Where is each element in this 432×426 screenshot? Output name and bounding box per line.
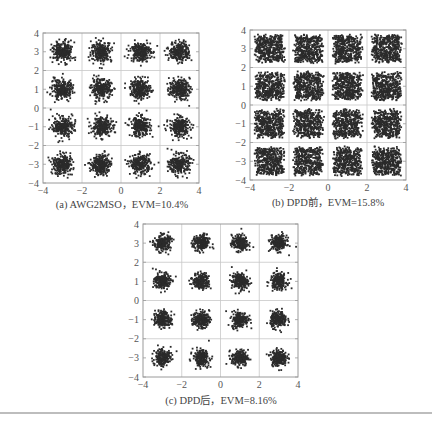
svg-text:−4: −4 [245,182,256,193]
chart-caption-b: (b) DPD前，EVM=15.8% [250,194,406,209]
svg-text:−1: −1 [235,118,246,129]
svg-text:3: 3 [134,238,139,249]
chart-caption-a: (a) AWG2MSO，EVM=10.4% [44,196,200,211]
svg-text:−4: −4 [38,185,49,196]
scatter-plot-a: −4−3−2−101234−4−2024 [23,27,207,197]
chart-caption-c: (c) DPD后，EVM=8.16% [143,392,299,407]
svg-text:0: 0 [119,185,124,196]
svg-text:2: 2 [257,379,262,390]
svg-text:0: 0 [134,295,139,306]
scatter-plot-b: −4−3−2−101234−4−2024 [230,24,414,194]
svg-text:−3: −3 [28,159,39,170]
svg-text:−3: −3 [235,156,246,167]
svg-text:−3: −3 [128,352,139,363]
svg-text:2: 2 [158,185,163,196]
svg-text:3: 3 [241,43,246,54]
svg-text:4: 4 [197,185,202,196]
svg-text:4: 4 [134,219,139,230]
scatter-plot-c: −4−3−2−101234−4−2024 [123,218,306,391]
constellation-chart-b: −4−3−2−101234−4−2024 [230,24,414,194]
svg-text:1: 1 [241,81,246,92]
svg-text:0: 0 [218,379,223,390]
constellation-points [149,228,297,371]
svg-text:4: 4 [296,379,301,390]
svg-text:−2: −2 [235,137,246,148]
svg-text:2: 2 [34,65,39,76]
svg-text:4: 4 [404,182,409,193]
svg-text:−2: −2 [284,182,295,193]
svg-text:2: 2 [365,182,370,193]
svg-text:−2: −2 [28,140,39,151]
svg-text:0: 0 [34,103,39,114]
svg-text:−4: −4 [138,379,149,390]
svg-text:−2: −2 [77,185,88,196]
bottom-divider [0,412,432,414]
svg-text:1: 1 [134,276,139,287]
constellation-chart-a: −4−3−2−101234−4−2024 [23,27,207,197]
svg-text:−1: −1 [128,314,139,325]
svg-text:−2: −2 [176,379,187,390]
svg-text:4: 4 [34,28,39,39]
svg-text:4: 4 [241,25,246,36]
svg-text:3: 3 [34,46,39,57]
svg-text:0: 0 [326,182,331,193]
svg-text:2: 2 [134,257,139,268]
svg-text:1: 1 [34,84,39,95]
svg-text:2: 2 [241,62,246,73]
svg-text:−2: −2 [128,333,139,344]
constellation-chart-c: −4−3−2−101234−4−2024 [123,218,306,391]
svg-text:0: 0 [241,100,246,111]
svg-text:−1: −1 [28,121,39,132]
